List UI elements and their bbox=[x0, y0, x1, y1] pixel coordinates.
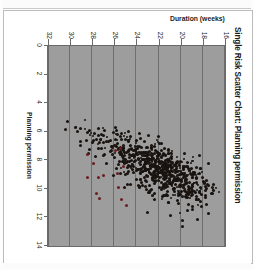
x-tick bbox=[44, 45, 48, 46]
y-axis-title: Duration (weeks) bbox=[170, 15, 225, 22]
data-point bbox=[204, 194, 207, 197]
data-point bbox=[191, 208, 194, 211]
x-axis-title: Planning permission bbox=[26, 45, 33, 246]
data-point bbox=[162, 171, 165, 174]
data-point bbox=[84, 119, 86, 121]
data-point bbox=[211, 186, 214, 189]
data-point bbox=[158, 152, 161, 155]
data-point bbox=[114, 152, 116, 154]
data-point bbox=[92, 135, 94, 137]
data-point bbox=[150, 188, 153, 191]
data-point bbox=[112, 174, 115, 177]
data-point bbox=[123, 135, 125, 137]
data-point bbox=[136, 153, 139, 156]
y-tick-label: 24 bbox=[134, 23, 141, 39]
data-point bbox=[205, 187, 208, 190]
data-point bbox=[176, 199, 179, 202]
data-point bbox=[195, 166, 198, 169]
data-point bbox=[199, 190, 201, 192]
data-point bbox=[139, 160, 142, 163]
y-tick-label: 30 bbox=[68, 23, 75, 39]
data-point bbox=[181, 219, 184, 222]
data-point bbox=[160, 142, 163, 145]
figure-frame: Single Risk Scatter Chart: Planning perm… bbox=[3, 10, 253, 264]
data-point bbox=[192, 156, 194, 158]
data-point bbox=[179, 212, 181, 214]
data-point bbox=[174, 194, 176, 196]
data-point bbox=[143, 140, 146, 143]
data-point bbox=[100, 147, 103, 150]
y-tick bbox=[48, 39, 49, 45]
data-point-highlight bbox=[117, 186, 120, 189]
data-point bbox=[129, 183, 132, 186]
data-point bbox=[140, 181, 143, 184]
page-top-margin bbox=[3, 0, 251, 9]
data-point bbox=[160, 176, 162, 178]
data-point bbox=[186, 209, 189, 212]
data-point bbox=[156, 139, 158, 141]
data-point bbox=[161, 168, 164, 171]
data-point-highlight bbox=[97, 176, 100, 179]
data-point bbox=[79, 140, 82, 143]
data-point bbox=[127, 130, 130, 133]
data-point bbox=[179, 167, 181, 169]
y-tick-label: 22 bbox=[156, 23, 163, 39]
data-point bbox=[186, 161, 189, 164]
data-point bbox=[178, 170, 180, 172]
data-point bbox=[132, 171, 135, 174]
data-point bbox=[103, 153, 106, 156]
data-point bbox=[157, 174, 159, 176]
data-point bbox=[182, 168, 185, 171]
data-point bbox=[148, 184, 151, 187]
data-point bbox=[176, 180, 178, 182]
data-point bbox=[147, 134, 150, 137]
data-point bbox=[207, 184, 210, 187]
data-point bbox=[211, 192, 214, 195]
data-point bbox=[114, 138, 117, 141]
scanned-page: Single Risk Scatter Chart: Planning perm… bbox=[0, 0, 254, 270]
data-point bbox=[120, 138, 123, 141]
data-point bbox=[154, 149, 157, 152]
y-tick-label: 18 bbox=[200, 23, 207, 39]
data-point bbox=[196, 218, 199, 221]
x-tick bbox=[44, 159, 48, 160]
data-point bbox=[176, 156, 178, 158]
y-tick-label: 16 bbox=[223, 23, 230, 39]
y-tick-label: 20 bbox=[178, 23, 185, 39]
data-point bbox=[189, 197, 191, 199]
data-point bbox=[76, 130, 79, 133]
x-tick bbox=[44, 188, 48, 189]
data-point bbox=[148, 158, 151, 161]
data-point bbox=[145, 180, 148, 183]
gridline bbox=[180, 46, 181, 246]
data-point bbox=[179, 194, 181, 196]
data-point bbox=[183, 158, 185, 160]
data-point bbox=[218, 191, 220, 193]
page-bottom-margin bbox=[3, 263, 251, 269]
data-point bbox=[105, 162, 108, 165]
data-point-highlight bbox=[87, 176, 90, 179]
data-point bbox=[207, 212, 210, 215]
gridline bbox=[69, 46, 70, 246]
data-point bbox=[155, 177, 157, 179]
y-tick bbox=[114, 39, 115, 45]
data-point bbox=[164, 162, 166, 164]
data-point bbox=[79, 127, 82, 130]
data-point bbox=[158, 186, 161, 189]
data-point bbox=[182, 186, 185, 189]
data-point bbox=[153, 170, 155, 172]
data-point bbox=[134, 148, 137, 151]
data-point bbox=[151, 194, 154, 197]
y-tick bbox=[92, 39, 93, 45]
x-tick bbox=[44, 102, 48, 103]
data-point bbox=[167, 152, 170, 155]
data-point bbox=[126, 172, 129, 175]
data-point bbox=[145, 154, 148, 157]
data-point bbox=[191, 193, 194, 196]
data-point bbox=[174, 183, 177, 186]
data-point bbox=[94, 155, 97, 158]
y-tick bbox=[137, 39, 138, 45]
data-point bbox=[75, 126, 77, 128]
data-point bbox=[150, 146, 153, 149]
data-point bbox=[205, 179, 208, 182]
